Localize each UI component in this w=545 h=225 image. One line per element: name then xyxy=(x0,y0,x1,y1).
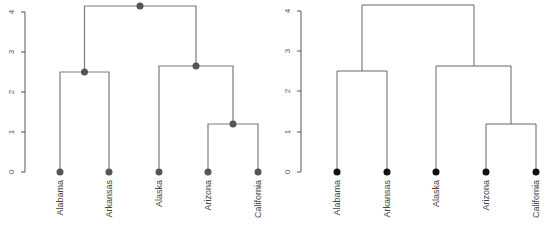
y-tick-3: 3 xyxy=(283,48,292,53)
leaf-point-arkansas xyxy=(384,169,391,176)
leaf-label-alaska: Alaska xyxy=(431,180,441,207)
leaf-point-arizona xyxy=(483,169,490,176)
right-y-axis: 0 1 2 3 4 xyxy=(283,8,301,174)
right-leaf-points xyxy=(334,169,540,176)
leaf-label-arizona: Arizona xyxy=(481,180,491,211)
y-tick-2: 2 xyxy=(283,88,292,93)
y-tick-1: 1 xyxy=(283,129,292,134)
right-dendrogram: 0 1 2 3 4 Alabama Arkansas Alaska Arizon… xyxy=(0,0,545,225)
y-tick-4: 4 xyxy=(283,8,292,13)
leaf-point-california xyxy=(533,169,540,176)
leaf-label-california: California xyxy=(531,180,541,218)
leaf-point-alaska xyxy=(433,169,440,176)
leaf-label-arkansas: Arkansas xyxy=(382,180,392,218)
y-tick-0: 0 xyxy=(283,169,292,174)
leaf-point-alabama xyxy=(334,169,341,176)
right-leaf-labels: Alabama Arkansas Alaska Arizona Californ… xyxy=(332,180,541,219)
right-branches xyxy=(337,5,536,172)
leaf-label-alabama: Alabama xyxy=(332,180,342,216)
